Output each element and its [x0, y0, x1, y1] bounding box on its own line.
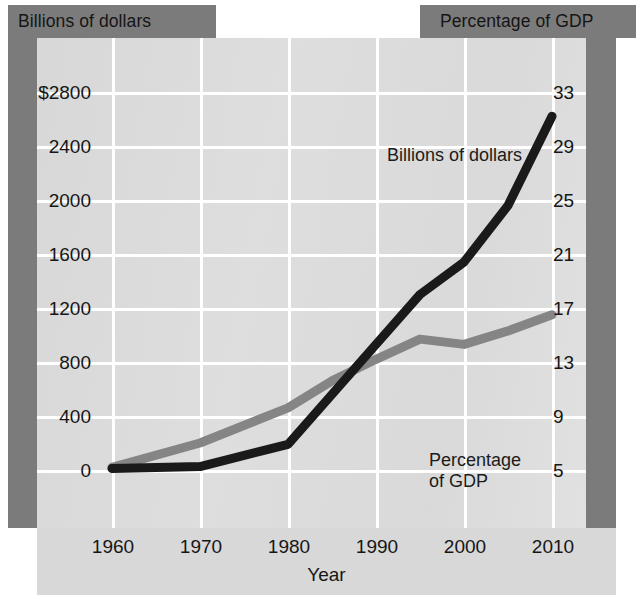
left-axis-tick-label: $2800 [38, 83, 91, 102]
x-axis-strip: 196019701980199020002010 Year [37, 528, 616, 595]
series-line-billions-of-dollars [112, 116, 552, 468]
right-axis-tick-label: 5 [553, 461, 564, 480]
right-axis-tick-label: 13 [553, 353, 574, 372]
left-axis-caption: Billions of dollars [18, 11, 151, 32]
right-axis-caption: Percentage of GDP [440, 11, 593, 32]
x-axis-tick-label: 1960 [92, 536, 134, 558]
left-axis-tick-label: 2000 [49, 191, 91, 210]
right-axis-tick-label: 29 [553, 137, 574, 156]
right-axis-tick-label: 17 [553, 299, 574, 318]
x-axis-tick-label: 1990 [356, 536, 398, 558]
x-axis-tick-label: 2010 [532, 536, 574, 558]
right-axis-tick-label: 9 [553, 407, 564, 426]
plot-area: Billions of dollars Percentage of GDP [37, 38, 586, 528]
left-axis-tick-label: 1200 [49, 299, 91, 318]
left-axis-tick-label: 800 [59, 353, 91, 372]
left-margin-band [8, 5, 37, 528]
x-axis-tick-label: 1980 [268, 536, 310, 558]
left-axis-tick-label: 2400 [49, 137, 91, 156]
x-axis-tick-label: 1970 [180, 536, 222, 558]
left-axis-tick-label: 1600 [49, 245, 91, 264]
left-axis-tick-label: 0 [80, 461, 91, 480]
left-axis-tick-labels: $280024002000160012008004000 [37, 38, 103, 528]
right-axis-caption-band: Percentage of GDP [420, 5, 636, 38]
annotation-percentage-of-gdp: Percentage of GDP [429, 450, 521, 492]
right-axis-tick-label: 25 [553, 191, 574, 210]
left-axis-caption-band: Billions of dollars [8, 5, 216, 38]
x-axis-tick-label: 2000 [444, 536, 486, 558]
left-axis-tick-label: 400 [59, 407, 91, 426]
x-axis-title: Year [37, 564, 616, 586]
right-axis-tick-labels: 33292521171395 [545, 38, 585, 528]
right-axis-tick-label: 21 [553, 245, 574, 264]
annotation-billions-of-dollars: Billions of dollars [387, 145, 522, 166]
right-margin-band [586, 38, 616, 528]
right-axis-tick-label: 33 [553, 83, 574, 102]
